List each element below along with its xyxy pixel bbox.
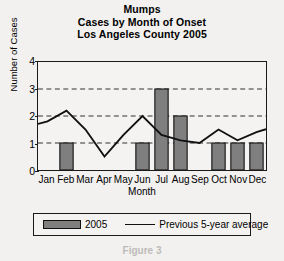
bar-aug <box>174 116 187 170</box>
x-axis-label: Month <box>0 186 284 197</box>
bar-dec <box>250 143 263 170</box>
bar-feb <box>60 143 73 170</box>
chart-title-line-1: Mumps <box>0 3 284 16</box>
legend-label-2005: 2005 <box>85 219 107 230</box>
x-tick-label-dec: Dec <box>243 174 271 186</box>
legend-item-2005: 2005 <box>43 219 107 230</box>
legend-swatch-icon <box>43 220 81 229</box>
y-tick-label-2: 2 <box>21 111 35 121</box>
bar-jun <box>136 143 149 170</box>
chart-figure: Mumps Cases by Month of Onset Los Angele… <box>0 0 284 261</box>
y-tick-mark <box>35 171 39 172</box>
bars-group <box>60 89 263 170</box>
chart-title-block: Mumps Cases by Month of Onset Los Angele… <box>0 3 284 41</box>
chart-legend: 2005 Previous 5-year average <box>33 213 251 236</box>
bottom-caption-artifact: Figure 3 <box>0 245 284 261</box>
bar-oct <box>212 143 225 170</box>
chart-title-line-3: Los Angeles County 2005 <box>0 28 284 41</box>
legend-line-icon <box>125 224 155 225</box>
legend-label-average: Previous 5-year average <box>159 219 268 230</box>
y-tick-label-4: 4 <box>21 56 35 66</box>
chart-title-line-2: Cases by Month of Onset <box>0 16 284 29</box>
y-tick-label-1: 1 <box>21 139 35 149</box>
y-tick-label-3: 3 <box>21 84 35 94</box>
plot-area <box>37 61 267 171</box>
y-axis-ticks: 01234 <box>17 61 35 171</box>
legend-item-average: Previous 5-year average <box>125 219 268 230</box>
bar-nov <box>231 143 244 170</box>
plot-canvas <box>38 62 266 170</box>
